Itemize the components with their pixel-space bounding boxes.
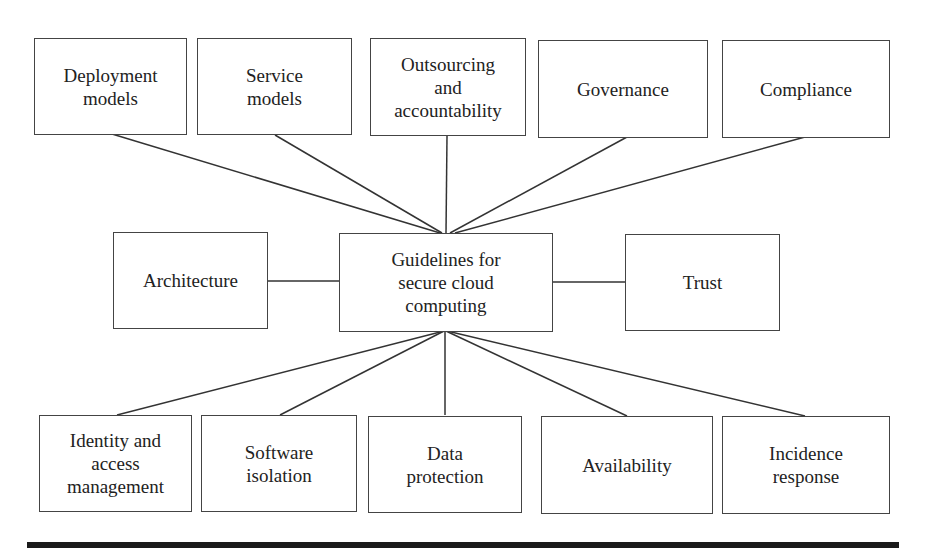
box-service-models: Service models (197, 38, 352, 135)
bottom-rule (27, 542, 899, 548)
box-center-guidelines: Guidelines for secure cloud computing (339, 233, 553, 332)
box-governance: Governance (538, 40, 708, 138)
box-availability: Availability (541, 416, 713, 514)
box-incidence-response: Incidence response (722, 416, 890, 514)
box-software-isolation: Software isolation (201, 415, 357, 512)
box-outsourcing-accountability: Outsourcing and accountability (370, 38, 526, 136)
box-compliance: Compliance (722, 40, 890, 138)
box-architecture: Architecture (113, 232, 268, 329)
box-trust: Trust (625, 234, 780, 331)
box-data-protection: Data protection (368, 416, 522, 513)
box-deployment-models: Deployment models (34, 38, 187, 135)
box-identity-access-management: Identity and access management (39, 415, 192, 512)
